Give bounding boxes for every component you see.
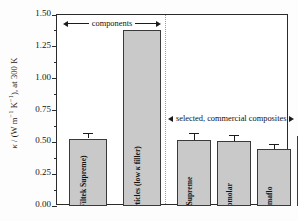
figure-canvas: κ / (W m−1 K−1), at 300 K 0.000.250.500.…: [0, 0, 298, 221]
arrow-right-icon: [156, 21, 161, 27]
plot-area: Blank resin(Filtek Supreme)a-SiO2 filler…: [56, 14, 288, 205]
annotation-components: components: [63, 18, 161, 29]
y-tick-label: 0.50: [18, 136, 51, 145]
bar-label-a-sio2-filler: a-SiO2 filler particles (low κ filler): [133, 147, 143, 206]
y-minor-tick: [54, 158, 57, 159]
y-tick-label: 0.75: [18, 105, 51, 114]
y-minor-tick: [54, 62, 57, 63]
y-minor-tick: [54, 126, 57, 127]
y-tick-label: 1.50: [18, 9, 51, 18]
bar-label-permaflo: Permaflo: [265, 187, 275, 206]
y-minor-tick: [54, 30, 57, 31]
bar-label-heliomolar: Heliomolar: [225, 184, 235, 206]
y-tick-label: 0.00: [18, 200, 51, 209]
error-cap-permaflo: [269, 144, 279, 145]
y-minor-tick: [54, 190, 57, 191]
annotation-composites: selected, commercial composites: [168, 113, 283, 124]
y-tick: [52, 174, 57, 175]
error-cap-blank-resin: [83, 133, 93, 134]
arrow-right-icon: [289, 116, 294, 122]
annotation-composites-label: selected, commercial composites: [173, 114, 289, 123]
bar-label-filtek-supreme: Filtek Supreme: [185, 177, 195, 206]
bar-label-blank-resin: Blank resin(Filtek Supreme): [79, 156, 89, 206]
bar-heliomolar: Heliomolar: [217, 141, 251, 206]
y-tick-label: 1.25: [18, 41, 51, 50]
error-cap-filtek-supreme: [189, 133, 199, 134]
y-tick: [52, 110, 57, 111]
error-cap-heliomolar: [229, 135, 239, 136]
annotation-components-label: components: [89, 19, 135, 28]
y-minor-tick: [54, 94, 57, 95]
group-divider: [165, 15, 166, 204]
bar-blank-resin: Blank resin(Filtek Supreme): [69, 139, 107, 206]
bar-vit-l-escence: Vit-l-escence: [297, 136, 298, 206]
y-tick: [52, 78, 57, 79]
bar-a-sio2-filler: a-SiO2 filler particles (low κ filler): [123, 30, 161, 206]
y-tick: [52, 206, 57, 207]
y-tick: [52, 142, 57, 143]
bar-permaflo: Permaflo: [257, 149, 291, 206]
y-tick: [52, 15, 57, 16]
y-tick-label: 0.25: [18, 168, 51, 177]
bar-filtek-supreme: Filtek Supreme: [177, 140, 211, 206]
y-tick-label: 1.00: [18, 73, 51, 82]
y-tick: [52, 46, 57, 47]
